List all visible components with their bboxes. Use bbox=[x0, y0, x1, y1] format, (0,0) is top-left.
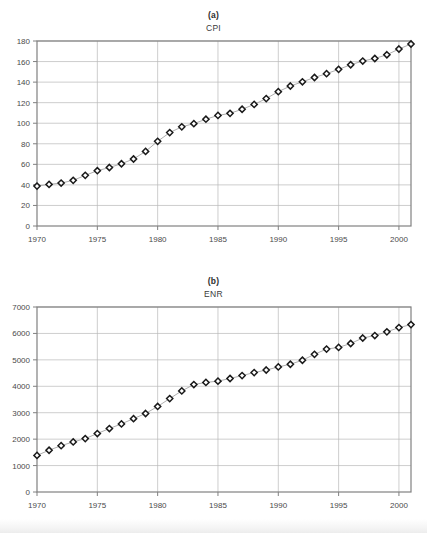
data-point-marker bbox=[155, 403, 161, 409]
gridlines bbox=[37, 307, 411, 492]
data-point-marker bbox=[46, 447, 52, 453]
y-tick-label: 0 bbox=[26, 488, 31, 497]
data-point-marker bbox=[58, 443, 64, 449]
data-point-marker bbox=[323, 346, 329, 352]
y-tick-label: 1000 bbox=[12, 462, 30, 471]
x-tick-label: 2000 bbox=[390, 235, 408, 244]
data-point-marker bbox=[130, 416, 136, 422]
figure-panel-b: (b) ENR 01000200030004000500060007000197… bbox=[0, 266, 427, 533]
y-tick-label: 5000 bbox=[12, 356, 30, 365]
series-line bbox=[37, 325, 411, 456]
data-point-marker bbox=[106, 164, 112, 170]
panel-a-letter: (a) bbox=[0, 8, 427, 22]
x-tick-label: 1970 bbox=[28, 501, 46, 510]
x-tick-label: 1980 bbox=[149, 235, 167, 244]
panel-a-title: CPI bbox=[0, 22, 427, 35]
data-point-marker bbox=[311, 74, 317, 80]
series-line bbox=[37, 44, 411, 186]
data-point-marker bbox=[360, 58, 366, 64]
data-point-marker bbox=[396, 46, 402, 52]
data-point-marker bbox=[82, 436, 88, 442]
x-axis: 1970197519801985199019952000 bbox=[28, 226, 408, 244]
data-point-marker bbox=[130, 156, 136, 162]
y-tick-label: 80 bbox=[21, 140, 30, 149]
x-tick-label: 1970 bbox=[28, 235, 46, 244]
data-point-marker bbox=[323, 71, 329, 77]
data-point-marker bbox=[227, 375, 233, 381]
data-point-marker bbox=[336, 344, 342, 350]
data-point-marker bbox=[94, 168, 100, 174]
data-point-marker bbox=[239, 106, 245, 112]
data-point-marker bbox=[118, 421, 124, 427]
data-point-marker bbox=[239, 372, 245, 378]
data-point-marker bbox=[203, 116, 209, 122]
data-point-marker bbox=[167, 129, 173, 135]
data-point-marker bbox=[396, 324, 402, 330]
data-point-marker bbox=[82, 172, 88, 178]
data-point-marker bbox=[118, 161, 124, 167]
data-point-marker bbox=[167, 395, 173, 401]
y-tick-label: 6000 bbox=[12, 329, 30, 338]
gridlines bbox=[37, 41, 411, 226]
enr-plot-area: 0100020003000400050006000700019701975198… bbox=[0, 301, 427, 516]
data-point-marker bbox=[70, 439, 76, 445]
data-point-marker bbox=[251, 101, 257, 107]
data-point-marker bbox=[287, 83, 293, 89]
y-tick-label: 100 bbox=[17, 119, 31, 128]
data-point-marker bbox=[408, 41, 414, 47]
y-tick-label: 7000 bbox=[12, 303, 30, 312]
series-markers bbox=[34, 322, 414, 459]
data-point-marker bbox=[191, 381, 197, 387]
y-tick-label: 120 bbox=[17, 99, 31, 108]
data-point-marker bbox=[191, 121, 197, 127]
y-tick-label: 2000 bbox=[12, 435, 30, 444]
y-tick-label: 20 bbox=[21, 201, 30, 210]
panel-b-letter: (b) bbox=[0, 274, 427, 288]
data-point-marker bbox=[70, 177, 76, 183]
y-tick-label: 4000 bbox=[12, 382, 30, 391]
y-tick-label: 160 bbox=[17, 58, 31, 67]
data-point-marker bbox=[94, 430, 100, 436]
data-point-marker bbox=[251, 369, 257, 375]
cpi-plot-area: 0204060801001201401601801970197519801985… bbox=[0, 35, 427, 250]
plot-frame bbox=[37, 41, 411, 226]
data-point-marker bbox=[384, 329, 390, 335]
data-point-marker bbox=[408, 322, 414, 328]
data-point-marker bbox=[311, 351, 317, 357]
cpi-chart-svg: 0204060801001201401601801970197519801985… bbox=[0, 35, 427, 250]
x-tick-label: 1990 bbox=[269, 501, 287, 510]
x-tick-label: 1985 bbox=[209, 235, 227, 244]
data-point-marker bbox=[142, 410, 148, 416]
enr-chart-svg: 0100020003000400050006000700019701975198… bbox=[0, 301, 427, 516]
data-point-marker bbox=[227, 110, 233, 116]
x-tick-label: 1980 bbox=[149, 501, 167, 510]
y-axis: 01000200030004000500060007000 bbox=[12, 303, 37, 497]
x-tick-label: 1985 bbox=[209, 501, 227, 510]
data-point-marker bbox=[348, 340, 354, 346]
data-point-marker bbox=[179, 388, 185, 394]
plot-frame bbox=[37, 307, 411, 492]
x-tick-label: 2000 bbox=[390, 501, 408, 510]
y-axis: 020406080100120140160180 bbox=[17, 37, 37, 231]
data-point-marker bbox=[336, 66, 342, 72]
data-point-marker bbox=[275, 364, 281, 370]
data-point-marker bbox=[263, 367, 269, 373]
x-tick-label: 1995 bbox=[330, 501, 348, 510]
y-tick-label: 40 bbox=[21, 181, 30, 190]
y-tick-label: 3000 bbox=[12, 409, 30, 418]
panel-b-title: ENR bbox=[0, 288, 427, 301]
x-axis: 1970197519801985199019952000 bbox=[28, 492, 408, 510]
data-point-marker bbox=[215, 378, 221, 384]
data-point-marker bbox=[360, 335, 366, 341]
data-point-marker bbox=[275, 89, 281, 95]
data-point-marker bbox=[372, 55, 378, 61]
data-point-marker bbox=[203, 379, 209, 385]
y-tick-label: 60 bbox=[21, 160, 30, 169]
data-point-marker bbox=[299, 79, 305, 85]
data-point-marker bbox=[287, 361, 293, 367]
data-point-marker bbox=[106, 425, 112, 431]
x-tick-label: 1975 bbox=[88, 235, 106, 244]
y-tick-label: 180 bbox=[17, 37, 31, 46]
data-point-marker bbox=[34, 183, 40, 189]
data-point-marker bbox=[384, 52, 390, 58]
